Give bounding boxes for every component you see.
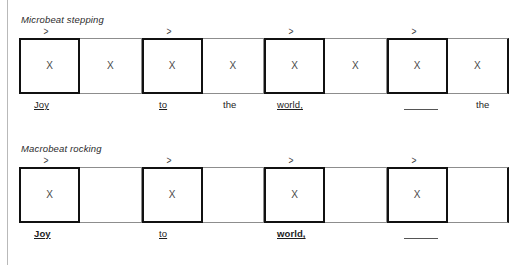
beat-x-mark: X	[230, 61, 237, 71]
beat-cell-weak[interactable]: X	[448, 38, 509, 94]
beat-cell-weak[interactable]	[203, 167, 264, 223]
accent-mark: >	[166, 26, 171, 38]
lyric-syllable: the	[223, 99, 237, 110]
beat-x-mark: X	[169, 61, 176, 71]
beat-x-mark: X	[414, 61, 421, 71]
beat-x-mark: X	[46, 61, 53, 71]
lyric-syllable: the	[476, 99, 490, 110]
beat-x-mark: X	[352, 61, 359, 71]
beat-cell-strong[interactable]: X	[387, 167, 448, 223]
accent-mark: >	[411, 155, 416, 167]
accent-mark: >	[166, 155, 171, 167]
beat-x-mark: X	[169, 190, 176, 200]
beat-x-mark: X	[474, 61, 481, 71]
staff-microbeat: Microbeat stepping > > > > X X X X X X X…	[19, 14, 509, 116]
accent-mark: >	[411, 26, 416, 38]
lyric-syllable: to	[159, 99, 167, 110]
beat-row-microbeat: X X X X X X X X	[19, 38, 509, 94]
beat-cell-weak[interactable]: X	[203, 38, 264, 94]
beat-x-mark: X	[46, 190, 53, 200]
lyric-syllable: world,	[277, 228, 306, 239]
beat-x-mark: X	[414, 190, 421, 200]
lyric-syllable: world,	[277, 99, 303, 110]
beat-cell-strong[interactable]: X	[264, 167, 325, 223]
lyric-row-microbeat: Joy to the world, the	[19, 94, 509, 116]
lyric-syllable: Joy	[34, 228, 51, 239]
beat-cell-weak[interactable]: X	[325, 38, 386, 94]
beat-cell-strong[interactable]: X	[142, 38, 203, 94]
beat-cell-strong[interactable]: X	[19, 167, 80, 223]
beat-x-mark: X	[291, 190, 298, 200]
accent-mark: >	[288, 155, 293, 167]
accent-row-macrobeat: > > > >	[19, 155, 509, 167]
beat-row-macrobeat: X X X X	[19, 167, 509, 223]
lyric-blank-underline	[404, 237, 438, 239]
accent-row-microbeat: > > > >	[19, 26, 509, 38]
beat-cell-strong[interactable]: X	[142, 167, 203, 223]
beat-cell-weak[interactable]	[80, 167, 141, 223]
staff-title-microbeat: Microbeat stepping	[21, 14, 509, 25]
accent-mark: >	[43, 26, 48, 38]
beat-cell-weak[interactable]: X	[80, 38, 141, 94]
lyric-blank-underline	[404, 108, 438, 110]
beat-cell-weak[interactable]	[325, 167, 386, 223]
lyric-syllable: Joy	[34, 99, 49, 110]
beat-x-mark: X	[107, 61, 114, 71]
staff-title-macrobeat: Macrobeat rocking	[21, 143, 509, 154]
lyric-syllable: to	[159, 228, 167, 239]
lyric-row-macrobeat: Joy to world,	[19, 223, 509, 245]
page-margin-rule	[7, 0, 8, 265]
beat-cell-strong[interactable]: X	[264, 38, 325, 94]
beat-cell-strong[interactable]: X	[19, 38, 80, 94]
staff-macrobeat: Macrobeat rocking > > > > X X X X Joy to…	[19, 143, 509, 245]
beat-cell-strong[interactable]: X	[387, 38, 448, 94]
accent-mark: >	[288, 26, 293, 38]
accent-mark: >	[43, 155, 48, 167]
beat-x-mark: X	[291, 61, 298, 71]
beat-cell-weak[interactable]	[448, 167, 509, 223]
